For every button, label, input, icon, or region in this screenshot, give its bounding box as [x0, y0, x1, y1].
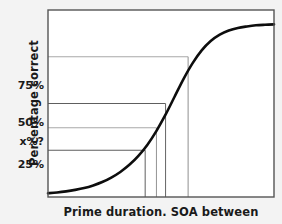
chart-figure: Percentage correct 75% 50% x%? 25% Prime…: [0, 0, 282, 224]
x-axis-title: Prime duration. SOA between: [48, 205, 274, 219]
plot-area: [0, 0, 282, 224]
